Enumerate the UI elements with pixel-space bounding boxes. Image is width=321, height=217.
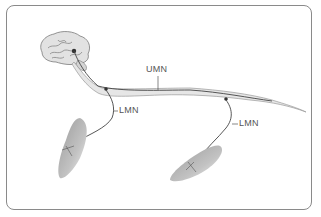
lmn-label-upper: LMN <box>119 105 139 115</box>
umn-label: UMN <box>146 64 167 74</box>
spinal-cord <box>72 62 306 112</box>
lmn-label-lower: LMN <box>239 118 259 128</box>
muscle-right <box>170 146 222 182</box>
brain-icon <box>41 32 90 71</box>
motor-neuron-diagram <box>0 0 321 217</box>
muscle-left <box>58 118 86 178</box>
